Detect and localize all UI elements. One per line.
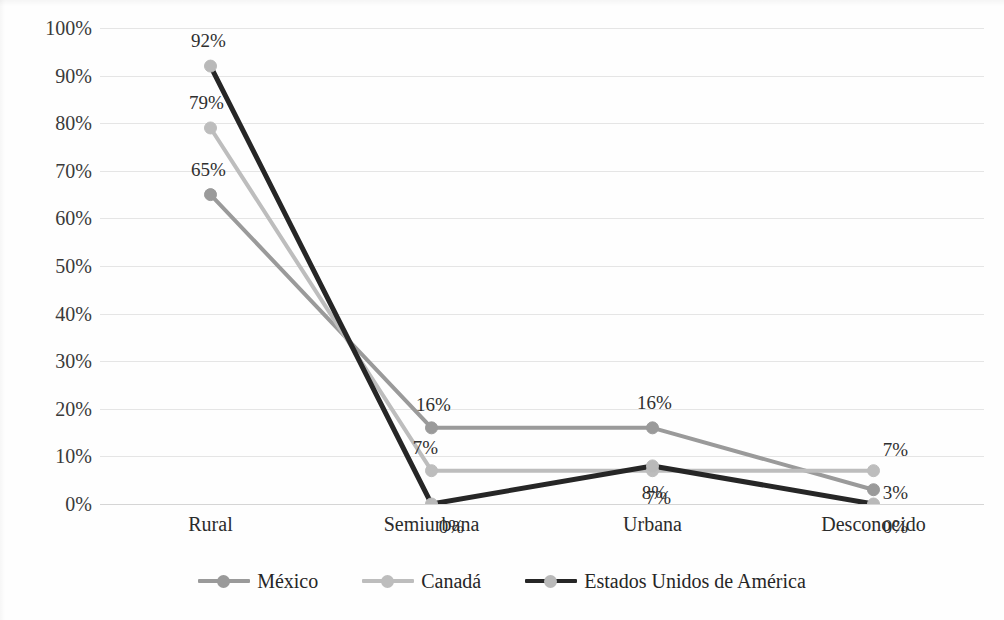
legend-label: México	[257, 569, 318, 593]
chart-legend: MéxicoCanadáEstados Unidos de América	[0, 560, 1004, 602]
legend-label: Estados Unidos de América	[584, 569, 806, 593]
data-point-marker	[647, 422, 659, 434]
x-axis-tick-label: Rural	[188, 512, 232, 536]
x-axis-tick-label: Desconocido	[821, 512, 925, 536]
x-axis-tick-label: Semiurbana	[384, 512, 480, 536]
y-axis-tick-label: 100%	[0, 18, 92, 38]
data-point-marker	[868, 498, 880, 504]
x-axis-tick-label: Urbana	[623, 512, 682, 536]
y-axis-tick-label: 60%	[0, 208, 92, 228]
y-axis-tick-label: 30%	[0, 351, 92, 371]
data-point-label: 92%	[191, 31, 226, 50]
data-point-label: 7%	[413, 437, 438, 456]
legend-item[interactable]: México	[198, 569, 318, 593]
y-axis-tick-label: 40%	[0, 304, 92, 324]
x-axis: RuralSemiurbanaUrbanaDesconocido	[100, 512, 984, 544]
legend-swatch-icon	[362, 574, 414, 588]
y-axis-tick-label: 50%	[0, 256, 92, 276]
data-point-marker	[647, 460, 659, 472]
series-line	[211, 195, 874, 490]
data-point-label: 3%	[883, 482, 908, 501]
series-lines	[100, 28, 984, 504]
data-point-marker	[868, 484, 880, 496]
y-axis-tick-label: 20%	[0, 399, 92, 419]
legend-label: Canadá	[421, 569, 481, 593]
y-axis-tick-label: 90%	[0, 66, 92, 86]
legend-item[interactable]: Canadá	[362, 569, 481, 593]
legend-swatch-icon	[198, 574, 250, 588]
data-point-label: 79%	[189, 92, 224, 111]
y-axis-tick-label: 80%	[0, 113, 92, 133]
legend-item[interactable]: Estados Unidos de América	[525, 569, 806, 593]
legend-swatch-icon	[525, 574, 577, 588]
data-point-marker	[426, 465, 438, 477]
data-point-label: 16%	[637, 392, 672, 411]
data-point-label: 7%	[883, 439, 908, 458]
gridline	[100, 504, 984, 505]
y-axis-tick-label: 70%	[0, 161, 92, 181]
y-axis-tick-label: 10%	[0, 446, 92, 466]
y-axis-tick-label: 0%	[0, 494, 92, 514]
data-point-label: 65%	[191, 159, 226, 178]
y-axis: 100%90%80%70%60%50%40%30%20%10%0%	[0, 28, 92, 504]
chart-figure: 100%90%80%70%60%50%40%30%20%10%0% 65%16%…	[0, 0, 1004, 620]
data-point-label: 16%	[416, 394, 451, 413]
data-point-label: 8%	[642, 482, 667, 501]
data-point-marker	[205, 189, 217, 201]
data-point-marker	[868, 465, 880, 477]
data-point-marker	[205, 60, 217, 72]
plot-area: 65%16%16%3%79%7%7%7%92%0%8%0%	[100, 28, 984, 504]
data-point-marker	[426, 422, 438, 434]
data-point-marker	[205, 122, 217, 134]
